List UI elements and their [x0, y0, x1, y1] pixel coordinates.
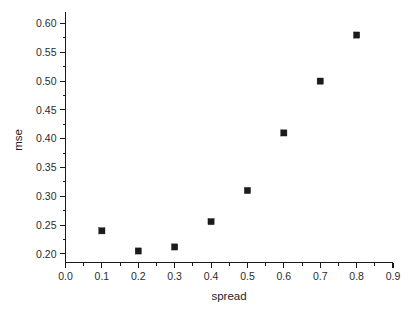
x-tick-label: 0.6	[277, 270, 292, 282]
y-tick-label: 0.60	[36, 17, 57, 29]
data-point-marker	[172, 244, 178, 250]
y-axis-ticks	[60, 24, 66, 254]
y-tick-label: 0.20	[36, 248, 57, 260]
data-point-marker	[281, 130, 287, 136]
data-point-marker	[354, 32, 360, 38]
data-point-marker	[317, 78, 323, 84]
y-tick-label: 0.55	[36, 46, 57, 58]
data-point-marker	[244, 187, 250, 193]
y-tick-label: 0.45	[36, 104, 57, 116]
data-markers	[99, 32, 360, 254]
y-tick-label: 0.35	[36, 161, 57, 173]
plot-axes	[65, 12, 393, 263]
chart-figure: 0.200.250.300.350.400.450.500.550.60 0.0…	[0, 0, 418, 314]
x-tick-label: 0.5	[240, 270, 255, 282]
x-tick-label: 0.3	[167, 270, 182, 282]
data-point-marker	[99, 228, 105, 234]
x-tick-label: 0.4	[204, 270, 219, 282]
y-tick-label: 0.30	[36, 190, 57, 202]
x-axis-title: spread	[211, 290, 246, 302]
y-axis-title: mse	[12, 129, 24, 151]
x-axis-ticks	[66, 263, 394, 269]
x-tick-label: 0.7	[313, 270, 328, 282]
data-point-marker	[208, 219, 214, 225]
data-point-marker	[135, 248, 141, 254]
x-tick-label: 0.9	[386, 270, 401, 282]
x-tick-label: 0.8	[349, 270, 364, 282]
x-axis-tick-labels: 0.00.10.20.30.40.50.60.70.80.9	[58, 270, 400, 282]
y-tick-label: 0.50	[36, 75, 57, 87]
x-tick-label: 0.0	[58, 270, 73, 282]
y-axis-tick-labels: 0.200.250.300.350.400.450.500.550.60	[36, 17, 57, 259]
y-tick-label: 0.40	[36, 132, 57, 144]
y-tick-label: 0.25	[36, 219, 57, 231]
x-tick-label: 0.1	[95, 270, 110, 282]
x-tick-label: 0.2	[131, 270, 146, 282]
scatter-plot: 0.200.250.300.350.400.450.500.550.60 0.0…	[0, 0, 418, 314]
